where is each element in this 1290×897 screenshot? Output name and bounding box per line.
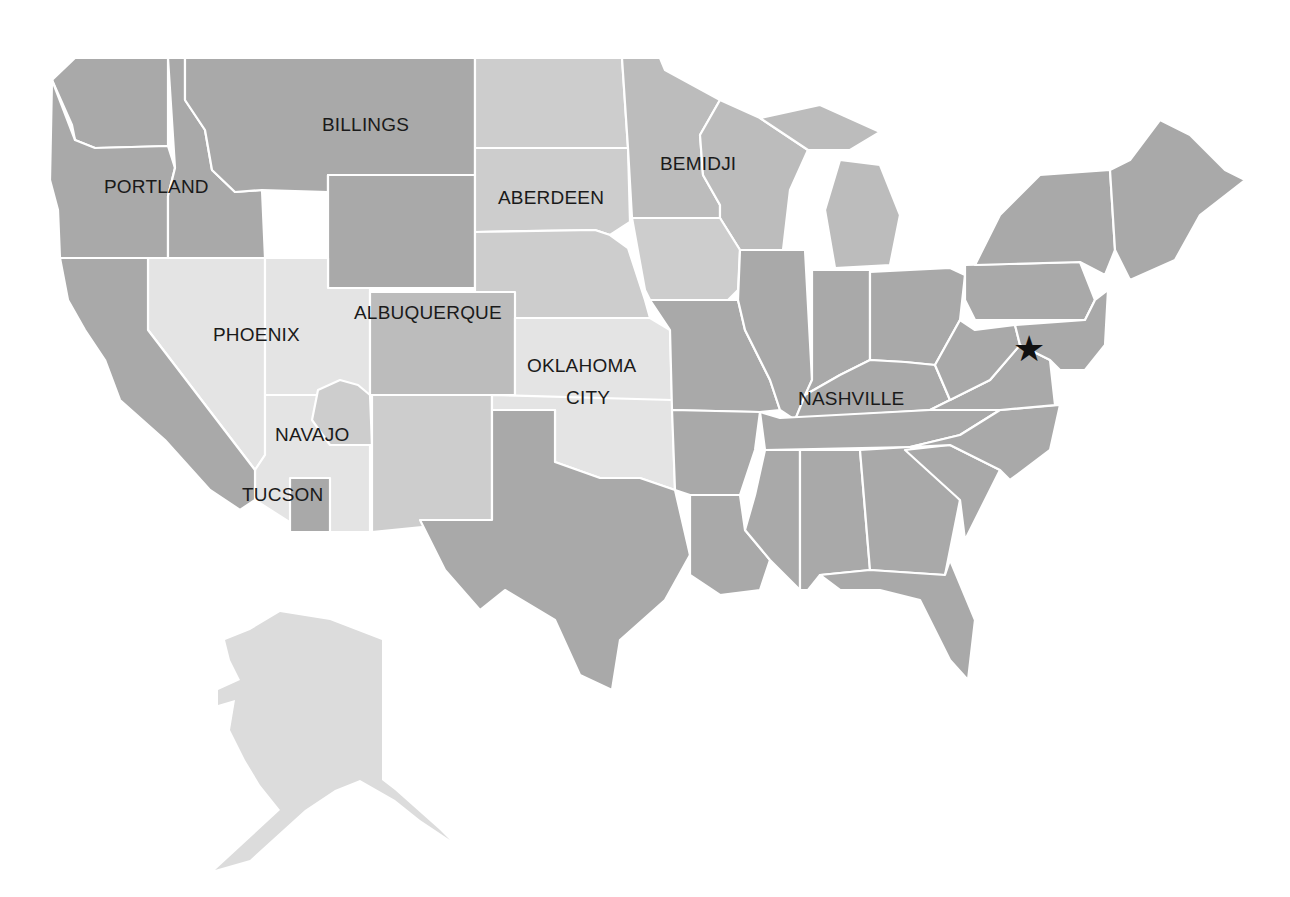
region-alabama <box>800 450 870 590</box>
region-new-england <box>1110 120 1245 280</box>
region-north-dakota <box>475 58 628 148</box>
star-icon: ★ <box>1013 331 1045 367</box>
contiguous-us <box>50 58 1245 690</box>
label-portland: PORTLAND <box>104 176 209 198</box>
region-wyoming <box>328 175 475 288</box>
region-arkansas <box>672 410 760 495</box>
label-nashville: NASHVILLE <box>798 388 904 410</box>
label-albuquerque: ALBUQUERQUE <box>354 302 502 324</box>
region-new-mexico <box>372 395 492 532</box>
region-florida <box>820 560 975 680</box>
label-bemidji: BEMIDJI <box>660 153 736 175</box>
label-navajo: NAVAJO <box>275 424 349 446</box>
label-tucson: TUCSON <box>242 484 323 506</box>
label-phoenix: PHOENIX <box>213 324 300 346</box>
label-oklahoma-city-line2: CITY <box>566 387 610 409</box>
label-oklahoma-city-line1: OKLAHOMA <box>527 355 636 377</box>
label-billings: BILLINGS <box>322 114 409 136</box>
us-ihs-areas-map <box>0 0 1290 897</box>
region-alaska <box>215 612 450 870</box>
label-aberdeen: ABERDEEN <box>498 187 604 209</box>
region-iowa <box>632 218 740 300</box>
region-new-york <box>975 170 1115 275</box>
region-pennsylvania <box>965 262 1095 320</box>
